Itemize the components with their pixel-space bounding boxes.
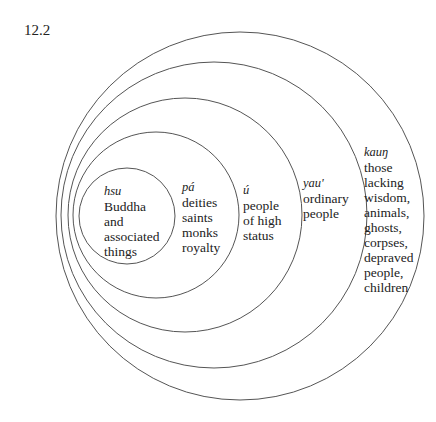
label-line: children	[364, 280, 413, 295]
term-kaung: kauŋ	[364, 145, 413, 160]
label-line: people	[303, 206, 349, 221]
label-line: those	[364, 160, 413, 175]
label-line: things	[104, 244, 159, 259]
label-hsu: hsu Buddha and associated things	[104, 184, 159, 259]
term-yau: yau'	[303, 176, 349, 191]
label-line: monks	[182, 225, 220, 240]
label-line: people	[243, 198, 282, 213]
label-yau: yau' ordinary people	[303, 176, 349, 221]
label-line: associated	[104, 229, 159, 244]
label-u: ú people of high status	[243, 183, 282, 243]
label-line: royalty	[182, 240, 220, 255]
label-line: depraved	[364, 250, 413, 265]
label-line: ordinary	[303, 191, 349, 206]
label-line: wisdom,	[364, 190, 413, 205]
label-kaung: kauŋ those lacking wisdom, animals, ghos…	[364, 145, 413, 295]
label-line: lacking	[364, 175, 413, 190]
label-line: Buddha	[104, 199, 159, 214]
label-line: and	[104, 214, 159, 229]
term-u: ú	[243, 183, 282, 198]
label-line: status	[243, 228, 282, 243]
label-pa: pá deities saints monks royalty	[182, 180, 220, 255]
label-line: animals,	[364, 205, 413, 220]
label-line: people,	[364, 265, 413, 280]
label-line: ghosts,	[364, 220, 413, 235]
label-line: saints	[182, 210, 220, 225]
term-hsu: hsu	[104, 184, 159, 199]
term-pa: pá	[182, 180, 220, 195]
label-line: of high	[243, 213, 282, 228]
label-line: deities	[182, 195, 220, 210]
label-line: corpses,	[364, 235, 413, 250]
